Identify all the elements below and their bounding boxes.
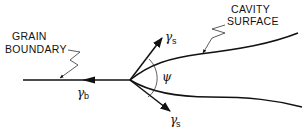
psi-symbol: ψ — [162, 70, 172, 84]
cavity-surface-leader — [203, 25, 225, 53]
cavity-label-line1: CAVITY — [231, 3, 270, 15]
gamma-s-upper-arrow — [130, 38, 162, 80]
grain-label-line2: BOUNDARY — [5, 43, 67, 55]
lower-cavity-surface — [130, 80, 302, 107]
grain-boundary-cavity-diagram: GRAIN BOUNDARY CAVITY SURFACE γ b γ s γ … — [0, 0, 308, 135]
cavity-label-line2: SURFACE — [227, 15, 279, 27]
grain-label-line1: GRAIN — [12, 30, 47, 42]
gamma-s-lower-subscript: s — [176, 119, 181, 129]
upper-cavity-surface — [130, 33, 298, 80]
gamma-b-arrowhead — [82, 77, 95, 84]
gamma-s-upper-subscript: s — [172, 36, 177, 46]
gamma-b-subscript: b — [84, 91, 89, 101]
